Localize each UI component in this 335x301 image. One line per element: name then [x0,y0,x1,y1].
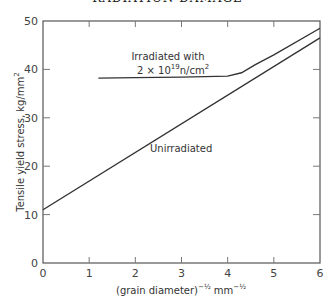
annotation-part: 19 [171,63,180,71]
x-tick-label: 1 [86,267,93,280]
y-tick-label: 10 [24,209,38,222]
y-tick-label: 30 [24,112,38,125]
annotation-irradiated-line1: Irradiated with [131,51,204,62]
x-tick-label: 4 [224,267,231,280]
x-tick-label: 5 [270,267,277,280]
y-label-text: Tensile yield stress, kg/mm [15,77,26,213]
y-tick-label: 0 [31,257,38,270]
y-tick-label: 40 [24,63,38,76]
x-tick-label: 6 [317,267,324,280]
annotation-part: 2 × 10 [137,65,171,76]
x-tick-label: 0 [40,267,47,280]
y-axis-label: Tensile yield stress, kg/mm2 [13,72,26,213]
x-label-part: −½ [233,283,246,291]
annotation-part: n/cm [180,65,205,76]
x-tick-label: 2 [132,267,139,280]
y-label-exp: 2 [13,72,21,76]
x-tick-label: 3 [178,267,185,280]
x-label-part: −½ [198,283,211,291]
x-axis-label: (grain diameter)−½ mm−½ [116,283,246,296]
x-label-part: (grain diameter) [116,285,198,296]
tensile-vs-grain-chart: 012345601020304050Irradiated with2 × 101… [0,0,335,301]
y-tick-label: 20 [24,160,38,173]
x-label-part: mm [211,285,234,296]
annotation-irradiated-line2: 2 × 1019n/cm2 [137,63,209,76]
y-tick-label: 50 [24,15,38,28]
series-line-0 [43,38,320,210]
annotation-unirradiated: Unirradiated [150,143,212,154]
annotation-part: 2 [205,63,209,71]
